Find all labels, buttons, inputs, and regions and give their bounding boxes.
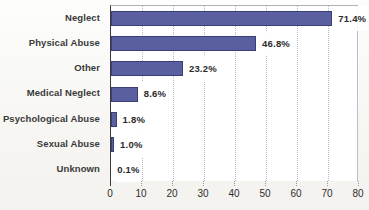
- tick-mark: [265, 181, 266, 186]
- tick-mark: [203, 181, 204, 186]
- bar-physical-abuse: [111, 36, 256, 51]
- plot-area: 71.4%46.8%23.2%8.6%1.8%1.0%0.1%: [110, 5, 358, 181]
- tick-mark: [296, 181, 297, 186]
- value-label-psychological-abuse: 1.8%: [121, 107, 147, 132]
- gridline: [235, 6, 236, 181]
- gridline: [173, 6, 174, 181]
- value-label-neglect: 71.4%: [336, 6, 368, 31]
- tick-mark: [110, 181, 111, 186]
- tick-mark: [141, 181, 142, 186]
- tick-label: 60: [283, 188, 309, 199]
- tick-mark: [172, 181, 173, 186]
- tick-mark: [234, 181, 235, 186]
- gridline: [328, 6, 329, 181]
- category-label-psychological-abuse: Psychological Abuse: [0, 106, 100, 131]
- value-label-medical-neglect: 8.6%: [142, 81, 168, 106]
- gridline: [297, 6, 298, 181]
- tick-mark: [327, 181, 328, 186]
- category-axis: NeglectPhysical AbuseOtherMedical Neglec…: [0, 5, 105, 181]
- bar-medical-neglect: [111, 87, 138, 102]
- category-label-neglect: Neglect: [0, 5, 100, 30]
- tick-label: 70: [314, 188, 340, 199]
- category-label-physical-abuse: Physical Abuse: [0, 30, 100, 55]
- tick-mark: [358, 181, 359, 186]
- tick-label: 30: [190, 188, 216, 199]
- value-label-unknown: 0.1%: [115, 157, 141, 182]
- category-label-sexual-abuse: Sexual Abuse: [0, 131, 100, 156]
- tick-label: 20: [159, 188, 185, 199]
- x-axis: 01020304050607080: [110, 181, 358, 207]
- tick-label: 80: [345, 188, 369, 199]
- bar-chart-figure: NeglectPhysical AbuseOtherMedical Neglec…: [0, 0, 369, 210]
- value-label-physical-abuse: 46.8%: [260, 31, 292, 56]
- category-label-medical-neglect: Medical Neglect: [0, 80, 100, 105]
- gridline: [204, 6, 205, 181]
- tick-label: 0: [97, 188, 123, 199]
- tick-label: 50: [252, 188, 278, 199]
- bar-psychological-abuse: [111, 112, 117, 127]
- category-label-unknown: Unknown: [0, 156, 100, 181]
- bar-other: [111, 61, 183, 76]
- tick-label: 10: [128, 188, 154, 199]
- bar-neglect: [111, 11, 332, 26]
- value-label-other: 23.2%: [187, 56, 219, 81]
- bar-sexual-abuse: [111, 137, 114, 152]
- category-label-other: Other: [0, 55, 100, 80]
- tick-label: 40: [221, 188, 247, 199]
- value-label-sexual-abuse: 1.0%: [118, 132, 144, 157]
